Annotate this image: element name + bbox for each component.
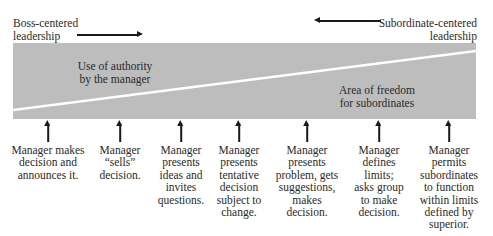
freedom-label: Area of freedom for subordinates [322, 84, 432, 110]
behavior-line: tentative [217, 169, 261, 181]
authority-line-2: by the manager [60, 73, 170, 86]
behavior-line: change. [217, 206, 261, 218]
up-arrow-icon [47, 123, 49, 142]
behavior-permits-function: Manager permits subordinates to function… [420, 144, 478, 231]
behavior-line: Manager [354, 144, 404, 156]
behavior-line: subject to [217, 194, 261, 206]
behavior-line: ideas and [158, 169, 204, 181]
behavior-line: subordinates [420, 169, 478, 181]
behavior-line: asks group [354, 181, 404, 193]
subordinate-centered-label: Subordinate-centered leadership [379, 17, 477, 43]
behavior-line: Manager [276, 144, 339, 156]
behavior-line: suggestions, [276, 181, 339, 193]
behavior-line: decision and [11, 156, 84, 168]
behavior-sells: Manager “sells” decision. [99, 144, 140, 181]
boss-centered-label: Boss-centered leadership [13, 17, 78, 43]
boss-centered-line-1: Boss-centered [13, 17, 78, 30]
behavior-line: announces it. [11, 169, 84, 181]
behavior-defines-limits: Manager defines limits; asks group to ma… [354, 144, 404, 218]
behavior-line: “sells” [99, 156, 140, 168]
behavior-line: presents [217, 156, 261, 168]
behavior-line: questions. [158, 194, 204, 206]
behavior-line: Manager [158, 144, 204, 156]
up-arrow-icon [378, 123, 380, 142]
behavior-line: problem, gets [276, 169, 339, 181]
freedom-line-1: Area of freedom [322, 84, 432, 97]
behavior-tells: Manager makes decision and announces it. [11, 144, 84, 181]
behavior-line: Manager [99, 144, 140, 156]
behavior-gets-suggestions: Manager presents problem, gets suggestio… [276, 144, 339, 218]
behavior-line: presents [276, 156, 339, 168]
subordinate-centered-line-1: Subordinate-centered [379, 17, 477, 30]
up-arrow-icon [448, 123, 450, 142]
behavior-line: within limits [420, 194, 478, 206]
authority-line-1: Use of authority [60, 60, 170, 73]
behavior-line: Manager makes [11, 144, 84, 156]
up-arrow-icon [180, 123, 182, 142]
behavior-line: makes [276, 194, 339, 206]
behavior-line: Manager [217, 144, 261, 156]
behavior-line: Manager [420, 144, 478, 156]
up-arrow-icon [306, 123, 308, 142]
freedom-line-2: for subordinates [322, 97, 432, 110]
behavior-line: invites [158, 181, 204, 193]
boss-centered-line-2: leadership [13, 30, 78, 43]
behavior-line: presents [158, 156, 204, 168]
behavior-line: decision. [99, 169, 140, 181]
behavior-line: defines [354, 156, 404, 168]
left-arrowhead-icon [314, 17, 320, 23]
behavior-line: decision [217, 181, 261, 193]
authority-label: Use of authority by the manager [60, 60, 170, 86]
behavior-invites-questions: Manager presents ideas and invites quest… [158, 144, 204, 206]
subordinate-centered-line-2: leadership [379, 30, 477, 43]
up-arrow-icon [119, 123, 121, 142]
behavior-line: decision. [354, 206, 404, 218]
behavior-line: permits [420, 156, 478, 168]
behavior-line: to make [354, 194, 404, 206]
right-arrowhead-icon [137, 31, 143, 37]
right-arrow-icon [77, 34, 139, 36]
behavior-tentative-decision: Manager presents tentative decision subj… [217, 144, 261, 218]
behavior-line: decision. [276, 206, 339, 218]
behavior-line: limits; [354, 169, 404, 181]
behavior-line: to function [420, 181, 478, 193]
up-arrow-icon [238, 123, 240, 142]
behavior-line: defined by [420, 206, 478, 218]
behavior-line: superior. [420, 218, 478, 230]
left-arrow-icon [318, 20, 381, 22]
